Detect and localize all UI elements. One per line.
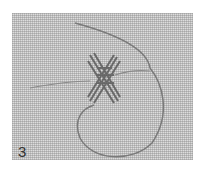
thread-right bbox=[115, 71, 150, 75]
embroidery-photo: 3 bbox=[12, 13, 193, 160]
thread-and-stitch-illustration bbox=[12, 13, 193, 160]
thread-left bbox=[30, 81, 90, 88]
thread-loop bbox=[75, 23, 163, 157]
cross-stitch-block bbox=[88, 53, 120, 103]
step-number-label: 3 bbox=[18, 143, 26, 160]
